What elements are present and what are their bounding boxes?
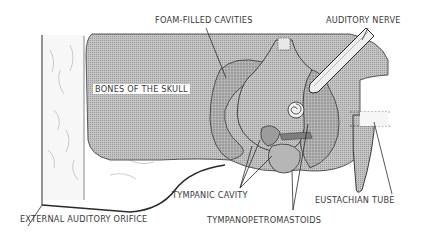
label-foam-filled-cavities: FOAM-FILLED CAVITIES bbox=[155, 16, 253, 24]
label-tympanic-cavity: TYMPANIC CAVITY bbox=[172, 191, 248, 199]
label-external-auditory-orifice: EXTERNAL AUDITORY ORIFICE bbox=[20, 215, 147, 223]
label-auditory-nerve: AUDITORY NERVE bbox=[326, 16, 401, 24]
cochlea-spiral bbox=[288, 102, 304, 118]
label-eustachian-tube: EUSTACHIAN TUBE bbox=[315, 196, 395, 204]
eustachian-tube bbox=[350, 112, 390, 192]
label-bones-of-the-skull: BONES OF THE SKULL bbox=[93, 84, 190, 94]
label-tympanopetromastoids: TYMPANOPETROMASTOIDS bbox=[207, 216, 321, 224]
